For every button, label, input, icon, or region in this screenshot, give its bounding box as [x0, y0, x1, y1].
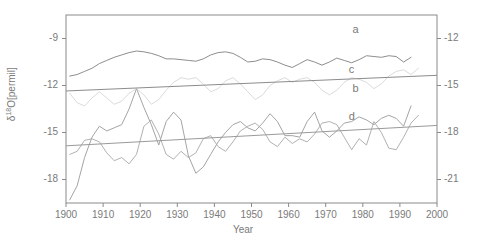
- y-tick-label-left: -9: [22, 32, 58, 43]
- y-tick-label-right: -15: [444, 79, 484, 90]
- plot-frame: [66, 15, 437, 203]
- y-tick-label-left: -18: [22, 173, 58, 184]
- series-layer: [66, 51, 437, 200]
- y-axis-title-rest: O[permil]: [6, 67, 17, 108]
- trend-line-d: [66, 125, 437, 145]
- series-line-d: [70, 115, 419, 164]
- y-tick-label-right: -21: [444, 173, 484, 184]
- y-tick-label-right: -18: [444, 126, 484, 137]
- y-tick-label-left: -12: [22, 79, 58, 90]
- series-line-c: [70, 68, 419, 106]
- x-axis-title: Year: [0, 224, 486, 235]
- series-line-a: [70, 51, 411, 76]
- x-tick-label: 2000: [415, 209, 459, 220]
- y-axis-title-superscript: 18: [5, 108, 12, 116]
- series-label-a: a: [352, 23, 358, 35]
- y-tick-label-right: -12: [444, 32, 484, 43]
- axes-layer: [62, 15, 441, 207]
- series-label-d: d: [349, 110, 355, 122]
- series-label-c: c: [349, 63, 355, 75]
- y-axis-title-delta: δ: [6, 116, 17, 122]
- series-line-b: [70, 89, 411, 200]
- y-tick-label-left: -15: [22, 126, 58, 137]
- series-label-b: b: [352, 82, 358, 94]
- chart-figure: δ18O[permil] Year 1900191019201930194019…: [0, 0, 486, 251]
- trend-line-c: [66, 75, 437, 91]
- y-axis-title: δ18O[permil]: [5, 57, 17, 131]
